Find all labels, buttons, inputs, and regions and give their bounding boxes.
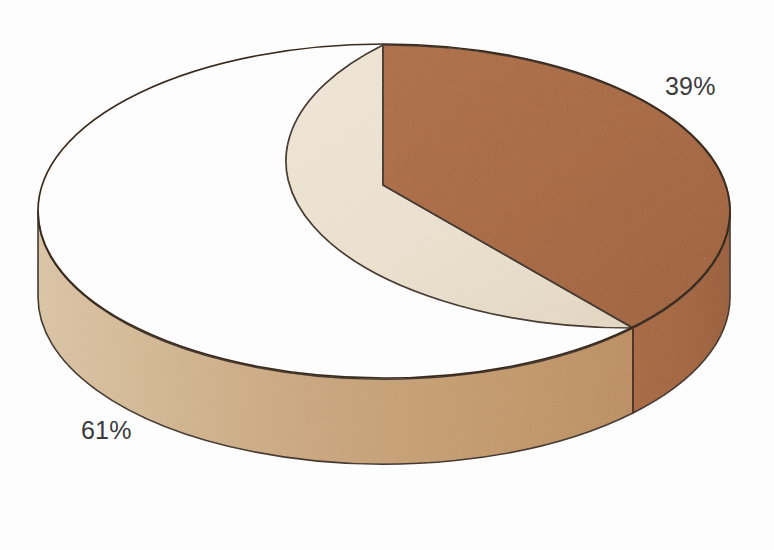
slice-39-percent-label: 39% bbox=[665, 74, 716, 99]
pie-chart-figure: 39% 61% bbox=[0, 0, 774, 550]
pie-top-face bbox=[286, 45, 730, 328]
slice-61-percent-label: 61% bbox=[81, 418, 132, 443]
pie-chart-graphic bbox=[0, 0, 774, 550]
